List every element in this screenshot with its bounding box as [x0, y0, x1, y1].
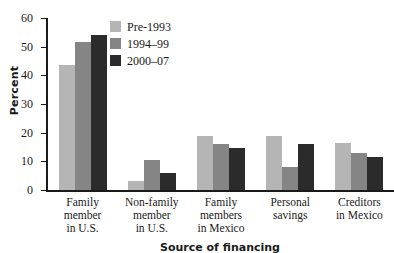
x-axis-category-label: Creditorsin Mexico [313, 196, 394, 222]
bar [91, 35, 107, 190]
legend-swatch [110, 55, 121, 66]
bar [351, 153, 367, 190]
bar [75, 42, 91, 190]
chart-legend: Pre-19931994–992000–07 [110, 19, 171, 70]
bar-group [197, 18, 245, 190]
y-axis-tick-label: 20 [0, 127, 38, 139]
y-axis-tick-label: 30 [0, 98, 38, 110]
y-axis-tick-label: 0 [0, 184, 38, 196]
bar [197, 136, 213, 190]
legend-label: Pre-1993 [127, 21, 171, 33]
bar-group [335, 18, 383, 190]
x-axis-title: Source of financing [46, 241, 394, 253]
bar [144, 160, 160, 190]
bar-group [59, 18, 107, 190]
y-axis-tick-mark [41, 18, 46, 19]
y-axis-tick-label: 40 [0, 69, 38, 81]
bar [229, 148, 245, 190]
bar [282, 167, 298, 190]
legend-item: 1994–99 [110, 36, 171, 51]
bar [128, 181, 144, 190]
y-axis-tick-label: 60 [0, 12, 38, 24]
legend-label: 2000–07 [127, 55, 169, 67]
y-axis-tick-mark [41, 161, 46, 162]
y-axis-tick-mark [41, 47, 46, 48]
bar-group [266, 18, 314, 190]
legend-label: 1994–99 [127, 38, 169, 50]
bar [160, 173, 176, 190]
bar [367, 157, 383, 190]
bar [59, 65, 75, 190]
x-axis-category-label-line: Creditors [313, 196, 394, 209]
legend-item: 2000–07 [110, 53, 171, 68]
legend-item: Pre-1993 [110, 19, 171, 34]
x-axis-category-label-line: in Mexico [313, 209, 394, 222]
bar [266, 136, 282, 190]
y-axis-title: Percent [8, 56, 21, 126]
y-axis-tick-mark [41, 104, 46, 105]
y-axis-tick-label: 50 [0, 41, 38, 53]
bar [298, 144, 314, 190]
bar [213, 144, 229, 190]
x-axis-line [46, 190, 394, 192]
legend-swatch [110, 21, 121, 32]
y-axis-tick-mark [41, 133, 46, 134]
bar [335, 143, 351, 190]
x-axis-category-label-line: in Mexico [175, 222, 267, 235]
legend-swatch [110, 38, 121, 49]
bar-chart: Percent 0102030405060 Familymemberin U.S… [0, 0, 394, 253]
y-axis-tick-mark [41, 75, 46, 76]
y-axis-tick-label: 10 [0, 155, 38, 167]
plot-area [48, 18, 394, 190]
